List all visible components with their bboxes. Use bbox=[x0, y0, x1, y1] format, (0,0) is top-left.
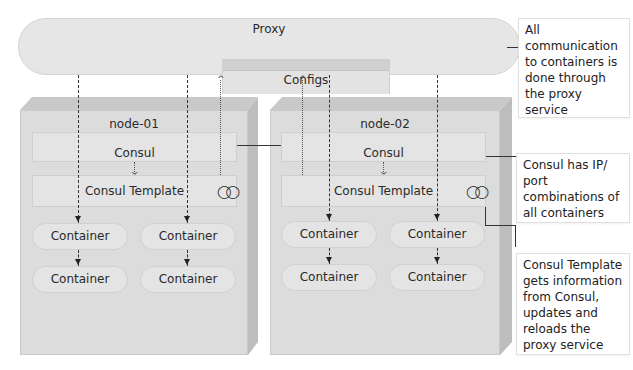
arrow-down-icon bbox=[434, 257, 440, 263]
node-01-consul: Consul bbox=[32, 132, 237, 162]
node-01-consul-template: Consul Template bbox=[32, 175, 237, 207]
node-02-top-face bbox=[270, 97, 512, 110]
node-02-consul-label: Consul bbox=[363, 146, 404, 160]
consul-template-callout: Consul Template gets information from Co… bbox=[516, 253, 630, 355]
proxy-to-container-link bbox=[329, 75, 330, 221]
node-02-container-4: Container bbox=[389, 264, 485, 291]
node-02-container-3: Container bbox=[281, 264, 377, 291]
node-02-container-1: Container bbox=[281, 221, 377, 248]
template-to-configs-link bbox=[220, 80, 221, 175]
node-01-container-2: Container bbox=[140, 223, 236, 250]
node-02-container-2: Container bbox=[389, 221, 485, 248]
arrow-down-icon: ^ bbox=[131, 166, 139, 175]
arrow-down-icon bbox=[184, 259, 190, 265]
arrow-up-icon: ^ bbox=[217, 75, 225, 84]
proxy-to-container-link bbox=[437, 75, 438, 221]
consul-cluster-link bbox=[237, 145, 281, 146]
node-01-container-1: Container bbox=[32, 223, 128, 250]
node-02-template-label: Consul Template bbox=[334, 184, 433, 198]
arrow-up-icon: ^ bbox=[299, 75, 307, 84]
node-02-label: node-02 bbox=[271, 117, 499, 131]
rings-icon: ◯◯ bbox=[466, 184, 483, 199]
node-01-container-4: Container bbox=[140, 266, 236, 293]
proxy-to-container-link bbox=[78, 75, 79, 223]
node-01-side-face bbox=[248, 97, 258, 355]
proxy-callout: All communication to containers is done … bbox=[518, 18, 630, 118]
node-01-consul-label: Consul bbox=[114, 146, 155, 160]
arrow-down-icon bbox=[75, 259, 81, 265]
consul-callout-connector bbox=[486, 156, 516, 157]
rings-icon: ◯◯ bbox=[217, 184, 234, 199]
proxy-service: Proxy Configs bbox=[18, 18, 520, 75]
node-01-top-face bbox=[20, 97, 258, 110]
template-callout-connector bbox=[485, 207, 486, 225]
proxy-label: Proxy bbox=[19, 22, 519, 36]
proxy-callout-connector bbox=[507, 47, 518, 48]
node-02-consul-template: Consul Template bbox=[281, 175, 486, 207]
arrow-down-icon bbox=[184, 216, 190, 222]
node-01-label: node-01 bbox=[21, 117, 247, 131]
template-callout-connector bbox=[485, 225, 515, 226]
arrow-down-icon bbox=[326, 257, 332, 263]
template-to-configs-link bbox=[302, 80, 303, 175]
node-02-consul: Consul bbox=[281, 132, 486, 162]
node-02-side-face bbox=[500, 97, 512, 355]
arrow-down-icon: ^ bbox=[380, 166, 388, 175]
consul-callout: Consul has IP/ port combinations of all … bbox=[516, 153, 630, 223]
template-callout-connector bbox=[515, 225, 516, 247]
arrow-down-icon bbox=[326, 214, 332, 220]
arrow-down-icon bbox=[75, 216, 81, 222]
proxy-to-container-link bbox=[187, 75, 188, 223]
node-01-template-label: Consul Template bbox=[85, 184, 184, 198]
configs-header-stripe bbox=[223, 60, 389, 71]
node-01-container-3: Container bbox=[32, 266, 128, 293]
arrow-down-icon bbox=[434, 214, 440, 220]
